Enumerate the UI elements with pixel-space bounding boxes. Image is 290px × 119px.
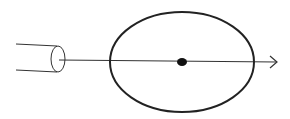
cylinder-bottom-edge bbox=[16, 70, 57, 72]
cylinder-end-face bbox=[51, 46, 65, 72]
axis-line bbox=[59, 60, 277, 62]
center-dot bbox=[177, 58, 187, 66]
diagram-canvas bbox=[0, 0, 290, 119]
cylinder-top-edge bbox=[16, 44, 57, 46]
cylinder bbox=[16, 44, 65, 72]
